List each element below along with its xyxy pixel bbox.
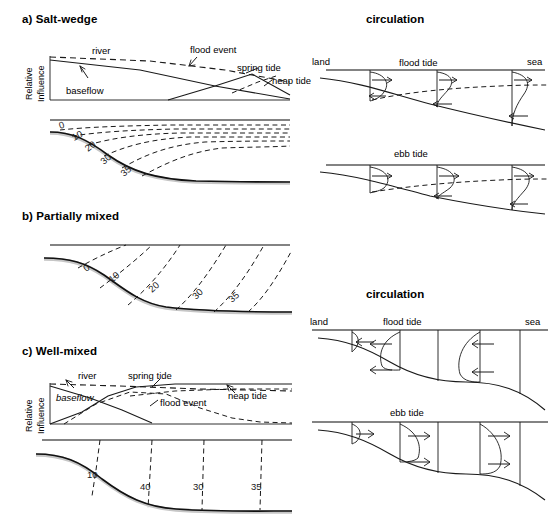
svg-circulation-well-mixed	[0, 0, 560, 528]
estuary-classification-figure: a) Salt-wedge b) Partially mixed c) Well…	[0, 0, 560, 528]
